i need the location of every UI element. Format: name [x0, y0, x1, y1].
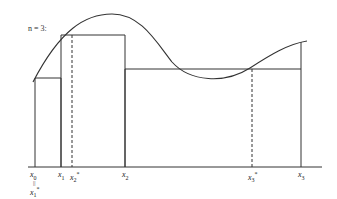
rectangle-1	[35, 78, 61, 167]
label-x2-sub: 2	[126, 175, 129, 181]
label-x1: x1	[58, 171, 65, 181]
label-x3-star-sub: 3	[252, 177, 255, 183]
label-x3: x3	[298, 171, 305, 181]
label-x3-star-sup: *	[255, 171, 258, 177]
label-x2: x2	[122, 171, 129, 181]
n-equals-label: n = 3:	[28, 24, 47, 33]
label-x1-star-sup: *	[37, 186, 40, 192]
label-x3-star: x3*	[248, 171, 258, 183]
label-x3-sub: 3	[302, 175, 305, 181]
label-x2-star: x2*	[70, 171, 80, 183]
label-x1-sub: 1	[62, 175, 65, 181]
label-x1-star-sub: 1	[34, 192, 37, 198]
riemann-sum-diagram	[0, 0, 337, 199]
label-x1-star: x1*	[30, 186, 40, 198]
label-x2-star-sub: 2	[74, 177, 77, 183]
rectangle-3	[125, 69, 301, 167]
function-curve	[33, 14, 307, 82]
label-x2-star-sup: *	[77, 171, 80, 177]
rectangle-2	[61, 35, 125, 167]
